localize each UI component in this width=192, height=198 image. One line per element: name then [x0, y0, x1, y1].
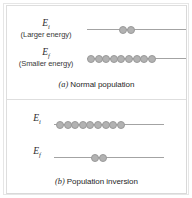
- energy-level-line-ef-b: [54, 157, 164, 158]
- level-description-larger-energy: (Larger energy): [8, 30, 84, 40]
- atom-circle: [91, 154, 99, 162]
- atom-circle: [117, 121, 125, 129]
- level-label-ei-a: Ei (Larger energy): [8, 18, 84, 40]
- panel-b-caption: (b) Population inversion: [7, 177, 186, 186]
- atom-circle: [125, 55, 133, 63]
- energy-level-figure: Ei (Larger energy) Ef (Smaller energy) (…: [0, 0, 192, 198]
- panel-a-caption: (a) Normal population: [7, 80, 186, 89]
- level-row-upper-b: Ei: [7, 113, 186, 135]
- atom-circle: [119, 26, 127, 34]
- atom-circle: [148, 55, 156, 63]
- level-description-smaller-energy: (Smaller energy): [8, 59, 84, 69]
- level-label-ef-b: Ef: [17, 146, 57, 158]
- panel-population-inversion: Ei Ef (b) Population inversion: [7, 100, 186, 194]
- panel-b-caption-id: (b): [55, 177, 65, 186]
- atom-group-ef-b: [91, 153, 106, 162]
- energy-level-line-ei-a: [87, 29, 186, 30]
- panel-a-caption-text: Normal population: [70, 80, 134, 89]
- level-row-upper-a: Ei (Larger energy): [7, 18, 186, 40]
- atom-circle: [87, 55, 95, 63]
- panel-a-caption-id: (a): [59, 80, 69, 89]
- level-row-lower-a: Ef (Smaller energy): [7, 47, 186, 69]
- level-subscript-i: i: [48, 23, 50, 30]
- panel-normal-population: Ei (Larger energy) Ef (Smaller energy) (…: [7, 6, 186, 99]
- panel-b-caption-text: Population inversion: [67, 177, 138, 186]
- atom-circle: [99, 154, 107, 162]
- level-subscript-f: f: [48, 52, 50, 59]
- atom-group-ei-a: [119, 25, 134, 34]
- atom-group-ei-b: [56, 120, 124, 129]
- level-row-lower-b: Ef: [7, 146, 186, 168]
- atom-circle: [127, 26, 135, 34]
- atom-group-ef-a: [87, 54, 155, 63]
- level-subscript-i: i: [39, 118, 41, 125]
- atom-circle: [56, 121, 64, 129]
- level-subscript-f: f: [39, 151, 41, 158]
- level-label-ef-a: Ef (Smaller energy): [8, 47, 84, 69]
- atom-circle: [94, 121, 102, 129]
- level-label-ei-b: Ei: [17, 113, 57, 125]
